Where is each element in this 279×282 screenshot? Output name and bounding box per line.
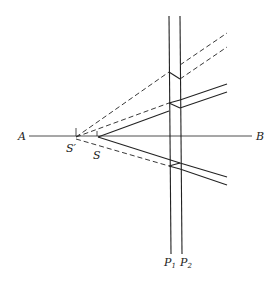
ray-upper-d xyxy=(180,92,227,108)
plate-p1 xyxy=(169,16,171,254)
dash-upper-3 xyxy=(76,103,169,137)
ray-upper-a xyxy=(98,111,169,137)
ray-lower-d xyxy=(180,169,227,185)
ray-lower-b xyxy=(180,163,227,177)
label-a: A xyxy=(17,130,26,143)
optics-diagram: A B S′ S P1 P2 xyxy=(0,0,279,282)
dash-upper-1b xyxy=(180,33,227,65)
label-b: B xyxy=(255,130,264,143)
dash-upper-zig xyxy=(169,72,180,79)
dash-upper-1 xyxy=(76,72,169,137)
label-p2: P2 xyxy=(179,256,192,270)
dash-upper-2 xyxy=(180,47,227,79)
ray-upper-b xyxy=(169,100,180,103)
ray-upper-c xyxy=(180,84,227,100)
ray-lower-a xyxy=(98,137,180,163)
label-p1: P1 xyxy=(163,256,176,270)
plate-p2 xyxy=(180,16,182,254)
dash-lower xyxy=(76,139,169,166)
ray-upper-zig xyxy=(169,103,180,108)
label-s: S xyxy=(93,149,101,162)
label-s-prime: S′ xyxy=(66,142,77,155)
